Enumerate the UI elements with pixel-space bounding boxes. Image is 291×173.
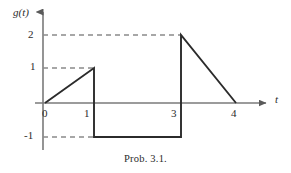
y-tick-label-neg1: -1 [24, 130, 33, 141]
waveform-curve [45, 35, 236, 137]
x-axis-label: t [275, 94, 278, 105]
x-tick-label-4: 4 [231, 108, 237, 119]
x-tick-label-3: 3 [171, 108, 177, 119]
x-tick-label-0: 0 [42, 108, 48, 119]
y-axis-label: g(t) [13, 7, 29, 18]
waveform-plot [0, 0, 291, 173]
figure-container: g(t) t 2 1 -1 0 1 3 4 Prob. 3.1. [0, 0, 291, 173]
y-tick-label-2: 2 [28, 29, 34, 40]
figure-caption: Prob. 3.1. [0, 153, 291, 165]
x-tick-label-1: 1 [84, 108, 90, 119]
y-tick-label-1: 1 [30, 61, 36, 72]
